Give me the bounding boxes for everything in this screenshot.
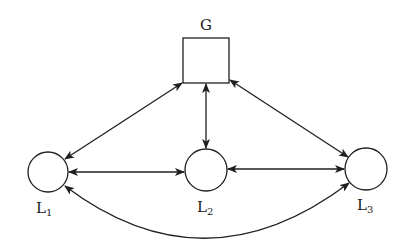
node-l1-label: L <box>36 199 46 217</box>
node-g: G <box>183 16 229 83</box>
node-g-square <box>183 38 229 83</box>
node-l3: L 3 <box>345 148 387 215</box>
node-l3-subscript: 3 <box>367 204 373 215</box>
node-l1: L 1 <box>28 152 68 218</box>
node-l2-label: L <box>197 198 207 216</box>
node-l2-subscript: 2 <box>207 206 213 217</box>
node-l3-circle <box>345 148 387 190</box>
node-l2-circle <box>185 149 227 191</box>
diagram-svg: G L 1 L 2 L 3 <box>0 0 406 251</box>
node-g-label: G <box>200 16 212 34</box>
node-l3-label: L <box>357 196 367 214</box>
node-l2: L 2 <box>185 149 227 217</box>
node-l1-subscript: 1 <box>46 207 52 218</box>
node-l1-circle <box>28 152 68 192</box>
edge-g-l3 <box>230 80 348 157</box>
edge-g-l1 <box>65 83 182 159</box>
network-diagram: G L 1 L 2 L 3 <box>0 0 406 251</box>
